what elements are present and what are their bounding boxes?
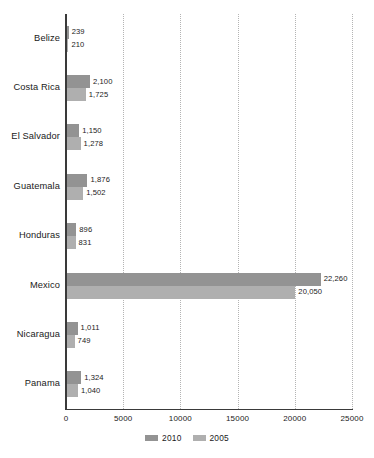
bar-value-label: 1,725 — [86, 91, 109, 99]
bar-rect — [66, 187, 83, 200]
x-tick-5000: 5000 — [114, 414, 133, 423]
bar-2010: 22,260 — [66, 273, 352, 286]
bar-2010: 1,150 — [66, 124, 352, 137]
bar-value-label: 749 — [75, 338, 91, 346]
bar-pair: 22,26020,050 — [66, 273, 352, 299]
category-label-guatemala: Guatemala — [0, 182, 60, 191]
bar-rect — [66, 75, 90, 88]
bar-value-label: 1,011 — [78, 325, 100, 333]
bar-value-label: 1,040 — [78, 387, 101, 395]
x-tick-25000: 25000 — [340, 414, 363, 423]
y-axis-line — [65, 14, 67, 410]
bar-pair: 896831 — [66, 223, 352, 249]
legend-item-2010: 2010 — [145, 434, 181, 442]
bar-value-label: 210 — [68, 41, 84, 49]
bar-row: 1,8761,502 — [66, 162, 352, 211]
bar-row: 896831 — [66, 212, 352, 261]
bar-2005: 1,725 — [66, 88, 352, 101]
bar-value-label: 831 — [76, 239, 92, 247]
x-axis-line — [66, 409, 353, 411]
bar-value-label: 2,100 — [90, 78, 113, 86]
bar-2005: 749 — [66, 335, 352, 348]
bar-2005: 210 — [66, 39, 352, 52]
category-label-belize: Belize — [0, 34, 60, 43]
category-label-el-salvador: El Salvador — [0, 132, 60, 141]
category-label-nicaragua: Nicaragua — [0, 330, 60, 339]
bar-2010: 2,100 — [66, 75, 352, 88]
bar-rect — [66, 223, 76, 236]
bar-row: 1,1501,278 — [66, 113, 352, 162]
category-label-panama: Panama — [0, 379, 60, 388]
legend-label-2010: 2010 — [162, 434, 181, 442]
bar-2005: 1,040 — [66, 384, 352, 397]
bar-2010: 1,324 — [66, 371, 352, 384]
bar-rect — [66, 384, 78, 397]
plot-area: 2392102,1001,7251,1501,2781,8761,5028968… — [66, 14, 352, 409]
bar-rect — [66, 124, 79, 137]
bar-pair: 1,8761,502 — [66, 174, 352, 200]
x-tick-15000: 15000 — [226, 414, 249, 423]
bar-2010: 1,876 — [66, 174, 352, 187]
legend-swatch-2005 — [193, 435, 206, 441]
bar-value-label: 1,278 — [81, 140, 104, 148]
bar-2005: 20,050 — [66, 286, 352, 299]
bar-pair: 2,1001,725 — [66, 75, 352, 101]
x-tick-0: 0 — [64, 414, 69, 423]
bar-row: 22,26020,050 — [66, 261, 352, 310]
x-tick-20000: 20000 — [283, 414, 306, 423]
bar-value-label: 896 — [76, 226, 92, 234]
bar-value-label: 1,150 — [79, 127, 102, 135]
bar-value-label: 22,260 — [321, 275, 348, 283]
bar-rect — [66, 88, 86, 101]
bar-value-label: 1,502 — [83, 190, 106, 198]
category-label-honduras: Honduras — [0, 231, 60, 240]
bar-rect — [66, 335, 75, 348]
gridline — [352, 14, 353, 409]
bar-rect — [66, 322, 78, 335]
bar-2010: 1,011 — [66, 322, 352, 335]
bar-rect — [66, 174, 87, 187]
bar-chart: 2392102,1001,7251,1501,2781,8761,5028968… — [0, 0, 374, 458]
chart-legend: 2010 2005 — [0, 434, 374, 442]
bar-value-label: 20,050 — [295, 288, 322, 296]
bar-row: 1,3241,040 — [66, 360, 352, 409]
bar-row: 2,1001,725 — [66, 63, 352, 112]
bar-row: 239210 — [66, 14, 352, 63]
category-label-costa-rica: Costa Rica — [0, 83, 60, 92]
bar-row: 1,011749 — [66, 310, 352, 359]
bar-value-label: 1,876 — [87, 177, 110, 185]
bar-2005: 1,278 — [66, 137, 352, 150]
bar-rect — [66, 137, 81, 150]
bar-rect — [66, 371, 81, 384]
bar-rect — [66, 236, 76, 249]
bar-2010: 239 — [66, 26, 352, 39]
category-label-mexico: Mexico — [0, 281, 60, 290]
bar-2005: 831 — [66, 236, 352, 249]
bar-2005: 1,502 — [66, 187, 352, 200]
bar-2010: 896 — [66, 223, 352, 236]
legend-item-2005: 2005 — [193, 434, 229, 442]
legend-label-2005: 2005 — [210, 434, 229, 442]
bar-pair: 1,1501,278 — [66, 124, 352, 150]
x-tick-10000: 10000 — [169, 414, 192, 423]
bar-rect — [66, 286, 295, 299]
bar-pair: 1,011749 — [66, 322, 352, 348]
bar-pair: 239210 — [66, 26, 352, 52]
bar-value-label: 239 — [69, 28, 85, 36]
bar-rect — [66, 273, 321, 286]
bar-value-label: 1,324 — [81, 374, 104, 382]
bar-pair: 1,3241,040 — [66, 371, 352, 397]
legend-swatch-2010 — [145, 435, 158, 441]
